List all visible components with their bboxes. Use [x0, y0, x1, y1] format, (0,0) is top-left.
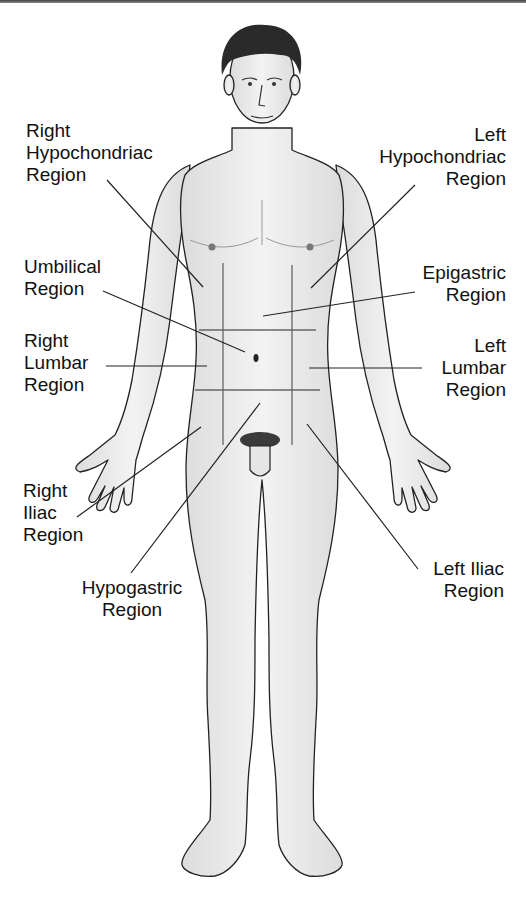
label-left-lumbar: Left Lumbar Region [442, 335, 506, 401]
navel [254, 354, 259, 362]
label-right-hypochondriac: Right Hypochondriac Region [26, 120, 153, 186]
label-umbilical: Umbilical Region [24, 256, 101, 300]
label-right-lumbar: Right Lumbar Region [24, 330, 88, 396]
label-epigastric: Epigastric Region [423, 262, 506, 306]
label-right-iliac: Right Iliac Region [23, 480, 83, 546]
label-left-iliac: Left Iliac Region [433, 558, 504, 602]
nipple-right [209, 244, 216, 251]
label-hypogastric: Hypogastric Region [72, 577, 192, 621]
nipple-left [307, 244, 314, 251]
label-left-hypochondriac: Left Hypochondriac Region [379, 124, 506, 190]
